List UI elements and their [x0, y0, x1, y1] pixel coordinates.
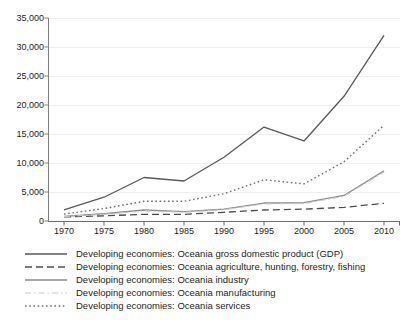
x-tick-label: 2010	[364, 226, 404, 236]
y-tick-label: 30,000	[2, 43, 44, 52]
x-tick-label: 1980	[124, 226, 164, 236]
y-tick-label: 5,000	[2, 188, 44, 197]
legend-line-swatch	[24, 274, 68, 286]
legend-line-swatch	[24, 248, 68, 260]
series-line	[64, 35, 384, 210]
chart-legend: Developing economies: Oceania gross dome…	[0, 247, 408, 312]
x-tick-label: 1970	[44, 226, 84, 236]
legend-label: Developing economies: Oceania manufactur…	[76, 287, 276, 299]
legend-label: Developing economies: Oceania gross dome…	[76, 248, 343, 260]
y-tick-label: 25,000	[2, 72, 44, 81]
y-tick-label: 10,000	[2, 159, 44, 168]
legend-line-swatch	[24, 261, 68, 273]
plot-area	[48, 18, 400, 221]
series-line	[64, 203, 384, 217]
x-tick-label: 1995	[244, 226, 284, 236]
series-lines	[64, 35, 384, 217]
y-tick-label: 20,000	[2, 101, 44, 110]
legend-label: Developing economies: Oceania services	[76, 300, 250, 312]
gridlines	[48, 19, 400, 193]
legend-line-swatch	[24, 300, 68, 312]
legend-item[interactable]: Developing economies: Oceania services	[0, 299, 408, 312]
chart-figure: 05,00010,00015,00020,00025,00030,00035,0…	[0, 0, 408, 320]
y-axis-tick-labels: 05,00010,00015,00020,00025,00030,00035,0…	[0, 0, 44, 240]
legend-item[interactable]: Developing economies: Oceania gross dome…	[0, 247, 408, 260]
x-tick-label: 2005	[324, 226, 364, 236]
y-tick-label: 35,000	[2, 14, 44, 23]
y-tick-label: 15,000	[2, 130, 44, 139]
legend-line-swatch	[24, 287, 68, 299]
x-tick-label: 1975	[84, 226, 124, 236]
legend-item[interactable]: Developing economies: Oceania agricultur…	[0, 260, 408, 273]
y-tick-label: 0	[2, 217, 44, 226]
x-tick-label: 1985	[164, 226, 204, 236]
legend-item[interactable]: Developing economies: Oceania industry	[0, 273, 408, 286]
series-line	[64, 172, 384, 217]
x-axis-tick-labels: 197019751980198519901995200020052010	[48, 226, 400, 240]
series-line	[64, 125, 384, 214]
x-axis-ticks	[64, 222, 400, 226]
x-tick-label: 2000	[284, 226, 324, 236]
x-tick-label: 1990	[204, 226, 244, 236]
chart-plot-svg	[48, 18, 400, 221]
legend-item[interactable]: Developing economies: Oceania manufactur…	[0, 286, 408, 299]
legend-label: Developing economies: Oceania agricultur…	[76, 261, 365, 273]
legend-label: Developing economies: Oceania industry	[76, 274, 249, 286]
